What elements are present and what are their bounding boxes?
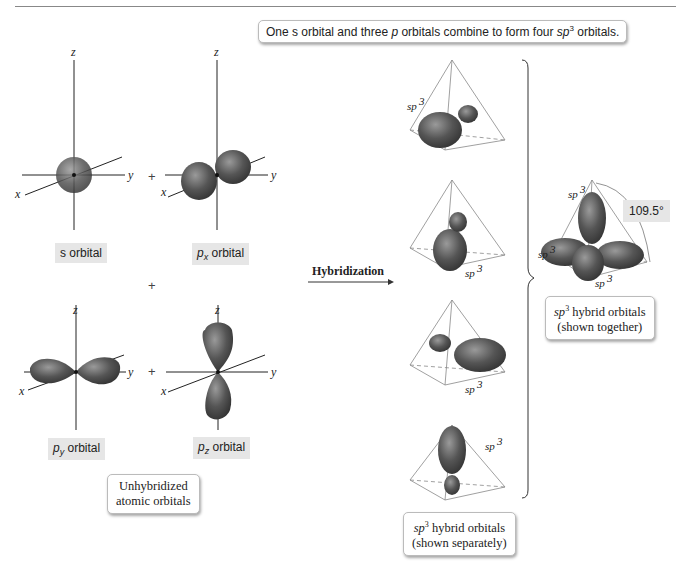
- sp3-orbitals-together: sp3 sp3 sp3: [538, 180, 650, 289]
- svg-text:y: y: [270, 168, 277, 182]
- svg-text:3: 3: [579, 183, 586, 195]
- s-orbital-label: s orbital: [55, 243, 107, 263]
- py-orbital-label: py orbital: [48, 438, 105, 460]
- plus-sign: +: [148, 169, 156, 184]
- px-label-text: orbital: [208, 246, 244, 260]
- svg-text:z: z: [214, 303, 220, 317]
- s-orbital: z y x: [14, 45, 134, 230]
- pz-orbital-label: pz orbital: [193, 437, 250, 459]
- py-p: p: [53, 441, 60, 455]
- svg-text:sp: sp: [538, 248, 548, 260]
- bond-angle-label: 109.5°: [623, 200, 670, 222]
- unhybridized-caption: Unhybridized atomic orbitals: [107, 474, 200, 514]
- py-orbital: z y x: [18, 303, 134, 430]
- svg-text:sp: sp: [407, 100, 417, 112]
- px-orbital-label: px orbital: [192, 243, 249, 265]
- svg-text:sp: sp: [595, 277, 605, 289]
- sp3-orbital-3: sp3: [410, 300, 506, 395]
- svg-text:y: y: [127, 365, 134, 379]
- s-label-text: s orbital: [60, 246, 102, 260]
- together-rest: hybrid orbitals: [569, 305, 645, 319]
- hybridization-label: Hybridization: [312, 264, 384, 279]
- svg-text:3: 3: [549, 243, 556, 255]
- svg-text:3: 3: [418, 95, 425, 107]
- svg-text:3: 3: [496, 435, 503, 447]
- plus-sign-2: +: [148, 278, 156, 293]
- pz-orbital: z y x: [160, 303, 277, 430]
- plus-sign-3: +: [148, 364, 156, 379]
- svg-text:x: x: [160, 384, 167, 398]
- orbital-diagram: z y x + z y x + z y x + z y x: [0, 0, 676, 561]
- shown-separately-caption: sp3 hybrid orbitals (shown separately): [403, 512, 516, 556]
- svg-text:sp: sp: [485, 440, 495, 452]
- px-p: p: [197, 246, 204, 260]
- pz-label-text: orbital: [209, 440, 245, 454]
- svg-text:x: x: [14, 187, 21, 201]
- svg-text:sp: sp: [465, 383, 475, 395]
- px-orbital: z y x: [160, 45, 277, 230]
- svg-text:x: x: [160, 185, 167, 199]
- curly-brace: [522, 60, 534, 498]
- unhybridized-line2: atomic orbitals: [116, 494, 191, 509]
- svg-text:z: z: [70, 45, 76, 59]
- svg-text:3: 3: [476, 262, 483, 274]
- svg-text:3: 3: [476, 378, 483, 390]
- svg-text:z: z: [72, 303, 78, 317]
- svg-text:sp: sp: [465, 267, 475, 279]
- pz-p: p: [198, 440, 205, 454]
- svg-text:y: y: [127, 168, 134, 182]
- shown-together-caption: sp3 hybrid orbitals (shown together): [545, 296, 655, 340]
- separately-line1: sp3 hybrid orbitals: [412, 517, 507, 536]
- svg-text:sp: sp: [568, 188, 578, 200]
- svg-text:x: x: [18, 384, 25, 398]
- sp3-orbital-2: sp3: [410, 180, 505, 279]
- py-label-text: orbital: [64, 441, 100, 455]
- unhybridized-line1: Unhybridized: [116, 479, 191, 494]
- sp3-orbital-1: sp3: [407, 60, 505, 150]
- separately-line2: (shown separately): [412, 536, 507, 551]
- svg-text:y: y: [270, 365, 277, 379]
- svg-text:z: z: [213, 45, 219, 59]
- together-line2: (shown together): [554, 320, 646, 335]
- separately-rest: hybrid orbitals: [429, 521, 505, 535]
- together-line1: sp3 hybrid orbitals: [554, 301, 646, 320]
- sp-text-2: sp: [554, 305, 565, 319]
- sp3-orbital-4: sp3: [410, 425, 505, 500]
- svg-text:3: 3: [606, 272, 613, 284]
- sp-text: sp: [414, 521, 425, 535]
